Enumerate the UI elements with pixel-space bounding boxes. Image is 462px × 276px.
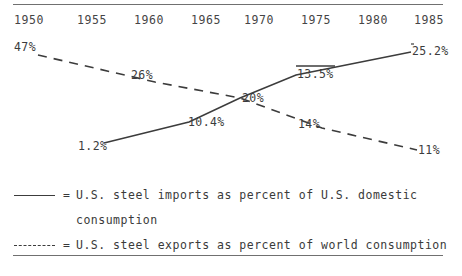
bottom-divider-rule	[13, 255, 443, 256]
legend-row-imports: = U.S. steel imports as percent of U.S. …	[13, 188, 453, 206]
data-label-imports-1955: 1.2%	[78, 139, 107, 153]
series-line-exports-dashed	[38, 55, 417, 150]
legend-row-exports: = U.S. steel exports as percent of world…	[13, 238, 453, 256]
data-label-exports-1950: 47%	[14, 40, 36, 54]
series-lines-svg	[0, 0, 462, 185]
legend-label-imports-continuation: consumption	[76, 213, 158, 227]
data-label-crossing-1970: 20%	[242, 91, 264, 105]
plot-area: 47% 26% 20% 14% 11% 1.2% 10.4% 13.5% 25.…	[0, 0, 462, 185]
data-label-imports-1965: 10.4%	[188, 115, 225, 129]
data-label-imports-1975: 13.5%	[297, 67, 334, 81]
data-label-imports-1985: 25.2%	[412, 44, 449, 58]
data-label-exports-1960: 26%	[131, 68, 153, 82]
legend-equals-sign-imports: =	[63, 188, 70, 202]
data-label-exports-1985: 11%	[418, 143, 440, 157]
legend-label-exports: U.S. steel exports as percent of world c…	[76, 238, 447, 252]
legend-solid-line-swatch-icon	[14, 195, 55, 198]
legend-dashed-line-swatch-icon	[14, 245, 55, 248]
legend-label-imports: U.S. steel imports as percent of U.S. do…	[76, 188, 418, 202]
chart-figure: 1950 1955 1960 1965 1970 1975 1980 1985 …	[0, 0, 462, 276]
legend-row-imports-continuation: consumption	[13, 213, 453, 231]
data-label-exports-1975: 14%	[298, 117, 320, 131]
legend-equals-sign-exports: =	[63, 238, 70, 252]
